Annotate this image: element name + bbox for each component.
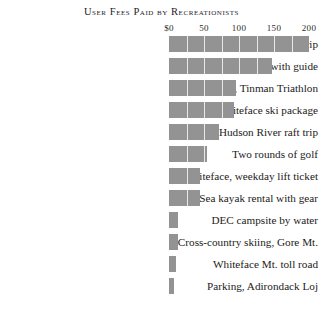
bar-category-label: Cross-country skiing, Gore Mt. — [158, 233, 323, 251]
bar-track — [169, 36, 309, 52]
x-axis-tick-label: 50 — [199, 23, 209, 33]
gridline — [204, 124, 205, 140]
gridline — [204, 102, 205, 118]
gridline — [292, 36, 293, 52]
x-axis-tick-label: $0 — [164, 23, 174, 33]
gridline — [204, 58, 205, 74]
bar — [169, 256, 176, 272]
x-axis-tick-label: 150 — [267, 23, 281, 33]
gridline — [204, 80, 205, 96]
gridline — [274, 36, 275, 52]
bar-track — [169, 212, 178, 228]
gridline — [187, 190, 188, 206]
bar-row: Whiteface Mt. toll road — [0, 255, 323, 273]
bar — [169, 102, 234, 118]
bar-track — [169, 80, 236, 96]
bar — [169, 168, 200, 184]
gridline — [187, 124, 188, 140]
bar-track — [169, 102, 234, 118]
bar-category-label: DEC campsite by water — [158, 211, 323, 229]
bar-row: Hudson River raft trip — [0, 123, 323, 141]
bar — [169, 278, 174, 294]
bar-track — [169, 278, 174, 294]
gridline — [204, 36, 205, 52]
gridline — [257, 58, 258, 74]
x-axis-tick-label: 100 — [232, 23, 246, 33]
bar-row: Whiteface ski package — [0, 101, 323, 119]
gridline — [187, 102, 188, 118]
bar-row: Cross-country skiing, Gore Mt. — [0, 233, 323, 251]
bar-track — [169, 124, 219, 140]
bar-row: Parking, Adirondack Loj — [0, 277, 323, 295]
gridline — [187, 146, 188, 162]
bar — [169, 212, 178, 228]
bar — [169, 36, 309, 52]
bar — [169, 146, 207, 162]
bar — [169, 80, 236, 96]
gridline — [187, 36, 188, 52]
bar-row: Fly-in fishing trip — [0, 35, 323, 53]
bar — [169, 58, 272, 74]
bar-rows: Fly-in fishing tripRock climbing with gu… — [0, 35, 323, 299]
x-axis-tick-label: 200 — [302, 23, 316, 33]
bar — [169, 124, 219, 140]
gridline — [187, 168, 188, 184]
bar — [169, 190, 200, 206]
bar — [169, 234, 178, 250]
gridline — [239, 36, 240, 52]
bar-track — [169, 168, 200, 184]
bar-category-label: Parking, Adirondack Loj — [158, 277, 323, 295]
bar-row: Rock climbing with guide — [0, 57, 323, 75]
bar-row: Sea kayak rental with gear — [0, 189, 323, 207]
bar-row: Entry fee, Tinman Triathlon — [0, 79, 323, 97]
gridline — [222, 102, 223, 118]
gridline — [187, 58, 188, 74]
bar-track — [169, 256, 176, 272]
bar-row: DEC campsite by water — [0, 211, 323, 229]
bar-track — [169, 234, 178, 250]
chart-container: User Fees Paid by Recreationists $050100… — [0, 0, 323, 317]
bar-category-label: Whiteface Mt. toll road — [158, 255, 323, 273]
gridline — [222, 80, 223, 96]
bar-row: Whiteface, weekday lift ticket — [0, 167, 323, 185]
gridline — [239, 58, 240, 74]
gridline — [222, 36, 223, 52]
bar-track — [169, 58, 272, 74]
chart-title: User Fees Paid by Recreationists — [0, 6, 323, 17]
gridline — [187, 80, 188, 96]
bar-row: Two rounds of golf — [0, 145, 323, 163]
gridline — [257, 36, 258, 52]
bar-track — [169, 146, 207, 162]
bar-track — [169, 190, 200, 206]
gridline — [222, 58, 223, 74]
x-axis-tick-labels: $050100150200 — [0, 23, 323, 35]
gridline — [204, 146, 205, 162]
